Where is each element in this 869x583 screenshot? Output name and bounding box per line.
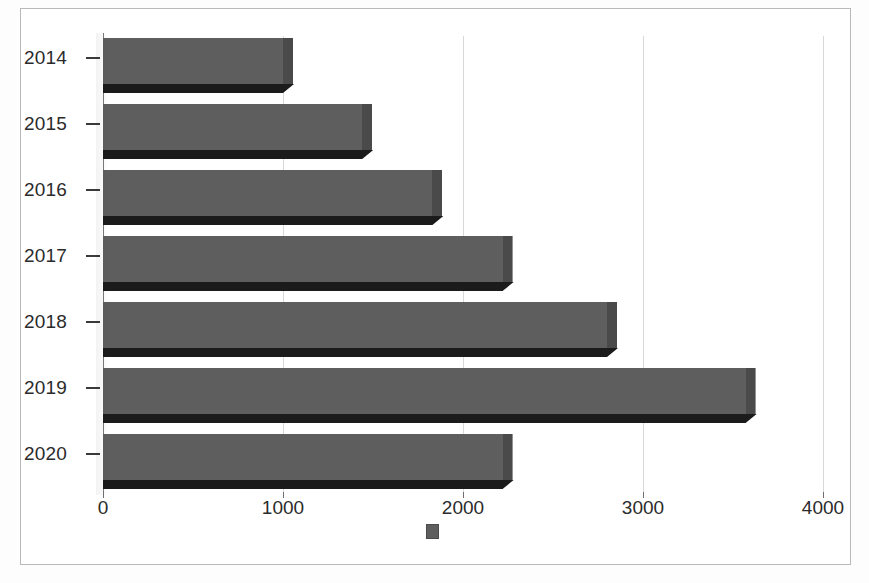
bar-front-face bbox=[103, 38, 283, 84]
bar-underside bbox=[103, 84, 294, 93]
bar-underside bbox=[103, 480, 514, 489]
gridline-4000 bbox=[823, 36, 824, 492]
bar-2019 bbox=[103, 368, 757, 434]
x-axis-label-0: 0 bbox=[63, 497, 143, 519]
plot-area: 2014201520162017201820192020 01000200030… bbox=[0, 0, 869, 583]
bar-underside bbox=[103, 414, 757, 423]
bar-2016 bbox=[103, 170, 443, 236]
y-tick-2018 bbox=[86, 321, 100, 323]
x-axis-label-2000: 2000 bbox=[423, 497, 503, 519]
y-axis-label-2018: 2018 bbox=[24, 312, 82, 331]
x-axis-label-1000: 1000 bbox=[243, 497, 323, 519]
bar-2015 bbox=[103, 104, 373, 170]
y-tick-2019 bbox=[86, 387, 100, 389]
bar-underside bbox=[103, 216, 443, 225]
y-axis-label-2016: 2016 bbox=[24, 180, 82, 199]
y-tick-2015 bbox=[86, 123, 100, 125]
x-axis-label-3000: 3000 bbox=[603, 497, 683, 519]
bar-front-face bbox=[103, 302, 607, 348]
bar-front-face bbox=[103, 434, 503, 480]
bar-underside bbox=[103, 348, 618, 357]
bar-front-face bbox=[103, 368, 746, 414]
y-tick-2017 bbox=[86, 255, 100, 257]
y-tick-2020 bbox=[86, 453, 100, 455]
y-axis-label-2014: 2014 bbox=[24, 48, 82, 67]
y-tick-2014 bbox=[86, 57, 100, 59]
y-axis-label-2019: 2019 bbox=[24, 378, 82, 397]
bar-2018 bbox=[103, 302, 618, 368]
bar-front-face bbox=[103, 170, 432, 216]
legend-swatch bbox=[426, 524, 439, 539]
bar-front-face bbox=[103, 104, 362, 150]
y-axis-label-2017: 2017 bbox=[24, 246, 82, 265]
x-axis-label-4000: 4000 bbox=[783, 497, 863, 519]
y-axis-label-2020: 2020 bbox=[24, 444, 82, 463]
bar-underside bbox=[103, 150, 373, 159]
bar-2020 bbox=[103, 434, 514, 500]
bar-front-face bbox=[103, 236, 503, 282]
y-axis-label-2015: 2015 bbox=[24, 114, 82, 133]
bar-2014 bbox=[103, 38, 294, 104]
bar-2017 bbox=[103, 236, 514, 302]
bar-underside bbox=[103, 282, 514, 291]
y-tick-2016 bbox=[86, 189, 100, 191]
